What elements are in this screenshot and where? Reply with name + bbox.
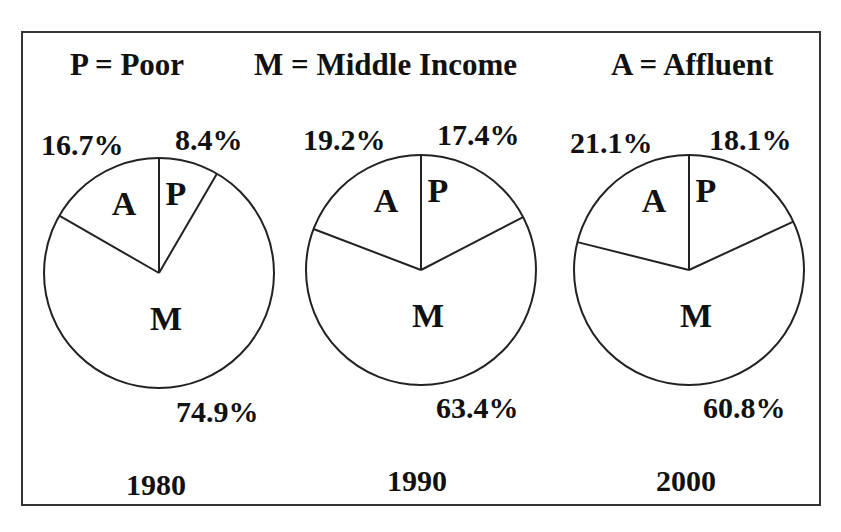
slice-label-middle: M	[680, 297, 712, 334]
slice-label-middle: M	[412, 297, 444, 334]
pie-2000: PAM	[574, 155, 804, 385]
slice-label-poor: P	[428, 172, 449, 209]
slice-label-affluent: A	[112, 185, 137, 222]
slice-label-affluent: A	[642, 182, 667, 219]
slice-label-poor: P	[696, 172, 717, 209]
slice-label-poor: P	[166, 175, 187, 212]
pie-1980: PAM	[44, 158, 274, 388]
pie-charts: PAM PAM PAM	[0, 0, 841, 532]
slice-label-middle: M	[150, 300, 182, 337]
slice-label-affluent: A	[374, 182, 399, 219]
pie-1990: PAM	[306, 155, 536, 385]
